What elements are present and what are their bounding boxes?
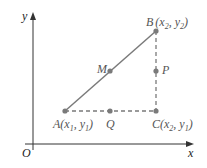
point-p: [153, 68, 158, 73]
x-axis-label: x: [187, 146, 194, 160]
point-q: [107, 108, 112, 113]
point-a: [62, 108, 67, 113]
label-q: Q: [106, 117, 115, 131]
label-b: B(x2, y2): [146, 15, 188, 31]
label-a: A(x1, y1): [52, 117, 93, 133]
point-b: [153, 28, 158, 33]
label-m: M: [96, 62, 108, 76]
origin-label: O: [22, 146, 31, 160]
point-c: [153, 108, 158, 113]
coordinate-diagram: y x O B(x2, y2) M P Q A(x1, y1) C(x2, y1…: [0, 0, 207, 168]
label-c: C(x2, y1): [152, 117, 193, 133]
y-axis-label: y: [21, 9, 28, 23]
point-m: [107, 68, 112, 73]
label-p: P: [161, 63, 170, 77]
y-axis-arrow-icon: [30, 12, 36, 20]
